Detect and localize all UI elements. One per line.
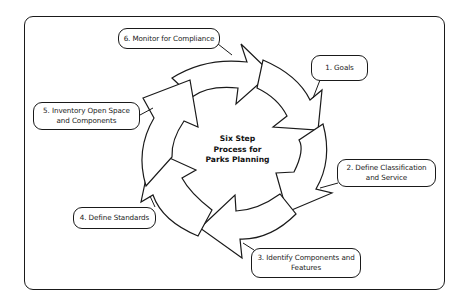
connector-6 [218,44,232,55]
step-3-label: 3. Identify Components and Features [251,248,361,278]
step-5-label: 5. Inventory Open Space and Components [33,102,140,130]
center-title-line-3: Parks Planning [195,155,280,166]
center-title-line-2: Process for [195,145,280,156]
connector-3 [243,243,254,250]
center-title: Six Step Process for Parks Planning [195,134,280,166]
step-6-label: 6. Monitor for Compliance [118,28,220,49]
center-title-line-1: Six Step [195,134,280,145]
step-4-label: 4. Define Standards [73,207,156,229]
connector-2 [320,183,338,188]
step-2-label: 2. Define Classification and Service [337,159,436,187]
step-1-label: 1. Goals [311,55,368,81]
